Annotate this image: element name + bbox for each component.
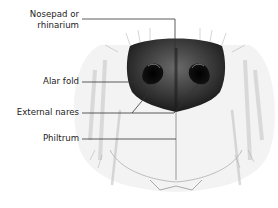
label-philtrum: Philtrum <box>43 133 79 144</box>
dog-nose-illustration <box>0 0 278 208</box>
label-alar-fold: Alar fold <box>43 76 79 87</box>
label-external-nares: External nares <box>17 107 79 118</box>
label-nosepad: Nosepad or rhinarium <box>30 9 79 31</box>
